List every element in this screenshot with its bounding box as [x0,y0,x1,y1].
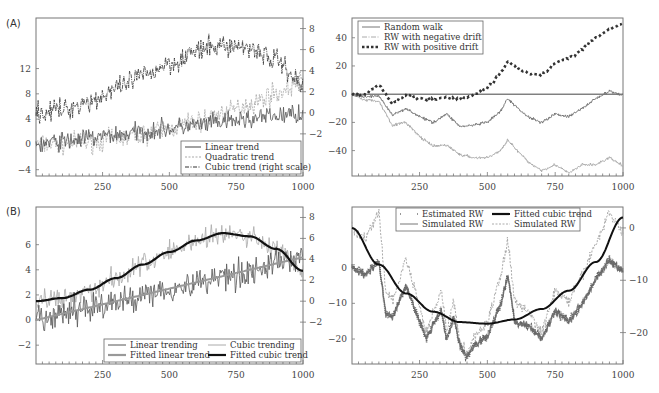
y-tick-label: 0 [25,139,31,149]
y-tick-label: 4 [25,114,31,124]
y-tick-label-right: 0 [309,296,315,306]
legend-item: RW with negative drift [384,32,482,42]
x-tick-label: 250 [94,370,111,380]
panel-a-right: 2505007501000−40−2002040Random walkRW wi… [328,18,635,192]
legend-item: Quadratic trend [205,152,275,162]
y-tick-label-right: −10 [629,275,648,285]
series-cubic-trend [36,34,303,124]
y-tick-label: 20 [336,61,348,71]
y-tick-label-right: 0 [629,223,635,233]
y-tick-label: −20 [328,117,347,127]
y-tick-label-right: 6 [309,45,315,55]
y-tick-label: 0 [25,315,31,325]
y-tick-label-right: 8 [309,24,315,34]
x-tick-label: 500 [161,370,178,380]
y-tick-label: 40 [336,33,348,43]
legend-item: Cubic trending [230,340,295,350]
x-tick-label: 1000 [292,182,315,192]
y-tick-label-right: 6 [309,233,315,243]
x-tick-label: 750 [228,182,245,192]
y-tick-label: 2 [25,290,31,300]
legend-item: Cubic trend (right scale) [205,162,311,172]
y-tick-label-right: 4 [309,254,315,264]
figure: 2505007501000−404812−202468Linear trendQ… [0,0,659,393]
x-tick-label: 1000 [612,182,635,192]
x-tick-label: 250 [411,370,428,380]
legend-item: Linear trending [130,340,198,350]
y-tick-label-right: 4 [309,66,315,76]
y-tick-label-right: −2 [309,129,322,139]
legend-item: Simulated RW [514,219,576,229]
x-tick-label: 750 [228,370,245,380]
x-tick-label: 500 [161,182,178,192]
x-tick-label: 500 [479,182,496,192]
x-tick-label: 250 [411,182,428,192]
legend-item: RW with positive drift [384,42,479,52]
x-tick-label: 500 [479,370,496,380]
panel-a-left: 2505007501000−404812−202468Linear trendQ… [18,18,323,192]
y-tick-label: −2 [18,340,31,350]
y-tick-label-right: 2 [309,87,315,97]
y-tick-label: 0 [341,263,347,273]
x-tick-label: 750 [547,370,564,380]
panel-label-b: (B) [6,206,21,217]
legend-item: Fitted linear trend [130,350,210,360]
y-tick-label: −10 [328,298,347,308]
y-tick-label-right: 0 [309,108,315,118]
legend-item: Simulated RW [422,219,484,229]
y-tick-label-right: −20 [629,328,648,338]
y-tick-label: 8 [25,89,31,99]
legend-item: Estimated RW [422,209,484,219]
series-fitted-cubic-trend [352,218,623,324]
legend-item: Random walk [384,22,444,32]
x-tick-label: 1000 [612,370,635,380]
series-random-walk [352,90,623,127]
y-tick-label: 6 [25,240,31,250]
y-tick-label: −20 [328,334,347,344]
series-rw-negative-drift [352,93,623,172]
series-fitted-linear-trend [36,257,303,320]
y-tick-label-right: −2 [309,317,322,327]
y-tick-label: −40 [328,146,347,156]
y-tick-label: 12 [20,64,31,74]
y-tick-label: 4 [25,265,31,275]
legend-item: Fitted cubic trend [230,350,308,360]
x-tick-label: 250 [94,182,111,192]
y-tick-label: −4 [18,165,32,175]
panel-label-a: (A) [6,18,21,29]
y-tick-label-right: 2 [309,275,315,285]
y-tick-label: 0 [341,89,347,99]
panel-b-left: 2505007501000−20246−202468Linear trendin… [18,207,323,380]
series-simulated-rw [352,259,623,358]
y-tick-label-right: 8 [309,212,315,222]
x-tick-label: 1000 [292,370,315,380]
legend-item: Linear trend [205,142,260,152]
x-tick-label: 750 [547,182,564,192]
panel-b-right: 2505007501000−20−100−20−100Estimated RWF… [328,207,648,380]
legend-item: Fitted cubic trend [514,209,592,219]
